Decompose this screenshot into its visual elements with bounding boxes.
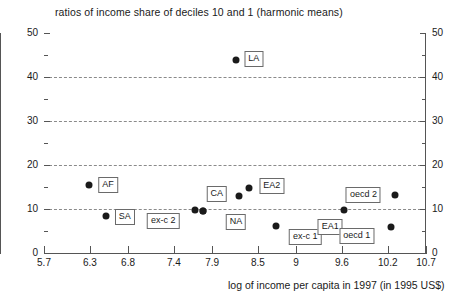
x-axis-label-8.5: 8.5 xyxy=(251,257,265,268)
x-axis-label-6.8: 6.8 xyxy=(121,257,135,268)
y-tick-right-45 xyxy=(422,55,426,56)
y-tick-right-35 xyxy=(422,99,426,100)
x-axis-line xyxy=(44,253,427,254)
y-tick-right-40 xyxy=(420,77,426,78)
y-axis-label-right-30: 30 xyxy=(432,115,458,126)
y-tick-left-20 xyxy=(44,165,50,166)
data-point-LA xyxy=(232,56,239,63)
x-axis-label-9: 9 xyxy=(293,257,299,268)
y-axis-label-left-10: 10 xyxy=(12,203,38,214)
data-point-AF xyxy=(86,181,93,188)
gridline-y-30 xyxy=(44,121,426,122)
point-label-oecd-2: oecd 2 xyxy=(346,187,381,203)
y-tick-right-25 xyxy=(422,143,426,144)
y-tick-right-10 xyxy=(420,209,426,210)
x-axis-label-9.6: 9.6 xyxy=(335,257,349,268)
y-axis-label-left-20: 20 xyxy=(12,159,38,170)
x-axis-label-10.7: 10.7 xyxy=(416,257,435,268)
y-tick-left-5 xyxy=(44,231,48,232)
y-tick-left-50 xyxy=(44,33,50,34)
y-axis-label-left-0: 0 xyxy=(12,247,38,258)
y-axis-label-left-50: 50 xyxy=(12,27,38,38)
y-tick-left-0 xyxy=(44,253,50,254)
data-point-EA2 xyxy=(245,184,252,191)
point-label-SA: SA xyxy=(115,209,135,225)
gridline-y-40 xyxy=(44,77,426,78)
x-axis-label-10.2: 10.2 xyxy=(378,257,397,268)
data-point-SA xyxy=(102,213,109,220)
x-tick-5.7 xyxy=(44,246,45,253)
y-axis-left-line xyxy=(0,33,1,254)
x-tick-6.3 xyxy=(90,246,91,253)
point-label-NA: NA xyxy=(226,214,247,230)
point-label-EA2: EA2 xyxy=(259,178,284,194)
gridline-y-20 xyxy=(44,165,426,166)
y-axis-label-right-0: 0 xyxy=(432,247,458,258)
y-tick-right-30 xyxy=(420,121,426,122)
x-tick-7.4 xyxy=(174,246,175,253)
point-label-ex-c-2: ex-c 2 xyxy=(147,213,180,229)
y-tick-left-35 xyxy=(44,99,48,100)
x-axis-label-6.3: 6.3 xyxy=(83,257,97,268)
y-axis-label-right-20: 20 xyxy=(432,159,458,170)
y-tick-left-15 xyxy=(44,187,48,188)
chart-title: ratios of income share of deciles 10 and… xyxy=(55,6,343,18)
data-point-ex-c-1 xyxy=(273,223,280,230)
data-point-oecd-1 xyxy=(387,224,394,231)
data-point-ex-c-2 xyxy=(192,206,199,213)
y-tick-right-50 xyxy=(420,33,426,34)
x-tick-10.2 xyxy=(388,246,389,253)
y-tick-right-5 xyxy=(422,231,426,232)
x-tick-10.7 xyxy=(426,246,427,253)
data-point-oecd-2 xyxy=(392,191,399,198)
chart-root: ratios of income share of deciles 10 and… xyxy=(0,0,470,306)
y-axis-label-left-30: 30 xyxy=(12,115,38,126)
y-tick-right-0 xyxy=(420,253,426,254)
y-axis-label-right-40: 40 xyxy=(432,71,458,82)
x-tick-9.6 xyxy=(342,246,343,253)
y-tick-left-10 xyxy=(44,209,50,210)
x-tick-9 xyxy=(296,246,297,253)
x-tick-6.8 xyxy=(128,246,129,253)
x-axis-label-7.4: 7.4 xyxy=(167,257,181,268)
y-tick-left-40 xyxy=(44,77,50,78)
x-axis-label-7.9: 7.9 xyxy=(205,257,219,268)
x-tick-8.5 xyxy=(258,246,259,253)
y-tick-left-45 xyxy=(44,55,48,56)
x-axis-label-5.7: 5.7 xyxy=(37,257,51,268)
point-label-AF: AF xyxy=(98,177,118,193)
x-axis-caption: log of income per capita in 1997 (in 199… xyxy=(228,279,445,291)
point-label-CA: CA xyxy=(207,186,228,202)
y-axis-label-right-10: 10 xyxy=(432,203,458,214)
point-label-ex-c-1: ex-c 1 xyxy=(289,229,322,245)
point-label-LA: LA xyxy=(244,51,263,67)
data-point-EA1 xyxy=(341,206,348,213)
data-point-CA xyxy=(235,192,242,199)
x-tick-7.9 xyxy=(212,246,213,253)
point-label-oecd-1: oecd 1 xyxy=(339,228,374,244)
y-axis-label-right-50: 50 xyxy=(432,27,458,38)
y-axis-label-left-40: 40 xyxy=(12,71,38,82)
gridline-y-10 xyxy=(44,209,426,210)
y-tick-right-15 xyxy=(422,187,426,188)
y-tick-left-30 xyxy=(44,121,50,122)
y-tick-right-20 xyxy=(420,165,426,166)
y-tick-left-25 xyxy=(44,143,48,144)
data-point-NA xyxy=(199,208,206,215)
